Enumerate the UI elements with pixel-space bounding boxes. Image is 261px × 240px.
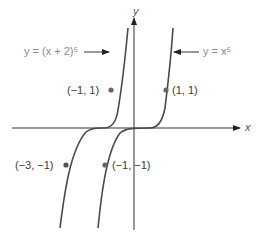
point-label-1-1: (1, 1)	[172, 85, 198, 96]
y-axis-label: y	[133, 6, 139, 17]
base-curve-label: y = x⁵	[203, 46, 231, 57]
point-neg3-neg1	[63, 162, 68, 167]
point-label-neg1-neg1: (−1, −1)	[112, 160, 151, 171]
point-label-neg1-1: (−1, 1)	[67, 85, 99, 96]
graph-canvas	[0, 0, 261, 240]
x-axis-label: x	[245, 122, 251, 133]
shifted-curve-label: y = (x + 2)⁵	[24, 46, 78, 57]
point-neg1-1	[108, 87, 113, 92]
point-neg1-neg1	[102, 162, 107, 167]
point-1-1	[163, 87, 168, 92]
point-label-neg3-neg1: (−3, −1)	[15, 160, 54, 171]
